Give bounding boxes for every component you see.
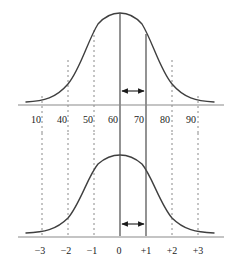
tick-label-top-4: 70 (134, 114, 144, 125)
panel-raw-score-distribution: 10 40 50 60 70 80 90 (18, 13, 224, 133)
tick-labels-top: 10 40 50 60 70 80 90 (31, 114, 196, 125)
tick-label-bottom-0: −3 (35, 245, 46, 256)
panel-z-score-distribution: −3 −2 −1 0 +1 +2 +3 (18, 133, 224, 256)
tick-label-top-5: 80 (160, 114, 170, 125)
tick-label-bottom-4: +1 (141, 245, 152, 256)
tick-label-bottom-5: +2 (167, 245, 178, 256)
tick-label-top-1: 40 (57, 114, 67, 125)
tick-label-top-3: 60 (108, 114, 118, 125)
tick-labels-bottom: −3 −2 −1 0 +1 +2 +3 (35, 245, 204, 256)
tick-label-bottom-1: −2 (61, 245, 72, 256)
tick-label-bottom-3: 0 (117, 245, 122, 256)
tick-label-bottom-6: +3 (193, 245, 204, 256)
tick-label-top-0: 10 (31, 114, 41, 125)
normal-distribution-figure: 10 40 50 60 70 80 90 (0, 0, 239, 267)
tick-label-top-6: 90 (186, 114, 196, 125)
distribution-chart-svg: 10 40 50 60 70 80 90 (0, 0, 239, 267)
tick-label-top-2: 50 (83, 114, 93, 125)
tick-label-bottom-2: −1 (87, 245, 98, 256)
